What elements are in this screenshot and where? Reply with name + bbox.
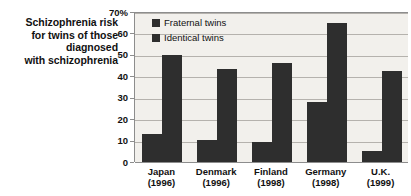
chart-legend: Fraternal twins Identical twins (152, 17, 226, 46)
bar-japan-fraternal (142, 134, 162, 162)
x-axis-label-year: (1998) (244, 177, 299, 188)
gridline-70 (135, 13, 408, 14)
y-tick-label-70: 70% (86, 8, 128, 18)
bar-uk-identical (382, 71, 402, 162)
bar-finland-identical (272, 63, 292, 162)
y-tick-label-60: 60 (86, 29, 128, 39)
x-axis-label-japan: Japan(1996) (134, 166, 189, 188)
x-axis-label-germany: Germany(1998) (298, 166, 353, 188)
bar-japan-identical (162, 55, 182, 162)
legend-swatch-icon-fraternal (152, 19, 160, 27)
bar-uk-fraternal (362, 151, 382, 162)
legend-item-fraternal-twins: Fraternal twins (152, 17, 226, 30)
bar-germany-fraternal (307, 102, 327, 162)
legend-label-fraternal: Fraternal twins (164, 17, 226, 30)
x-axis-label-uk: U.K.(1999) (353, 166, 408, 188)
x-axis-label-name: Finland (254, 166, 288, 177)
x-axis-label-finland: Finland(1998) (244, 166, 299, 188)
bar-denmark-fraternal (197, 140, 217, 163)
x-axis-label-name: U.K. (371, 166, 390, 177)
legend-label-identical: Identical twins (164, 32, 224, 45)
x-axis-label-year: (1996) (134, 177, 189, 188)
x-axis-label-name: Japan (148, 166, 175, 177)
x-axis-label-name: Germany (305, 166, 346, 177)
bar-denmark-identical (217, 69, 237, 162)
chart-figure: Schizophrenia risk for twins of those di… (0, 0, 411, 196)
y-tick-label-30: 30 (86, 93, 128, 103)
y-tick-mark-0 (130, 162, 134, 163)
bar-germany-identical (327, 23, 347, 162)
y-tick-label-40: 40 (86, 72, 128, 82)
y-tick-label-10: 10 (86, 136, 128, 146)
legend-item-identical-twins: Identical twins (152, 32, 226, 45)
x-axis-label-year: (1996) (189, 177, 244, 188)
bar-finland-fraternal (252, 142, 272, 162)
y-tick-label-20: 20 (86, 115, 128, 125)
y-tick-label-0: 0 (86, 158, 128, 168)
x-axis-label-year: (1998) (298, 177, 353, 188)
x-axis-label-year: (1999) (353, 177, 408, 188)
x-axis-label-denmark: Denmark(1996) (189, 166, 244, 188)
x-axis-label-name: Denmark (196, 166, 237, 177)
chart-title-line-1: Schizophrenia risk (0, 16, 118, 29)
legend-swatch-icon-identical (152, 34, 160, 42)
y-tick-label-50: 50 (86, 50, 128, 60)
